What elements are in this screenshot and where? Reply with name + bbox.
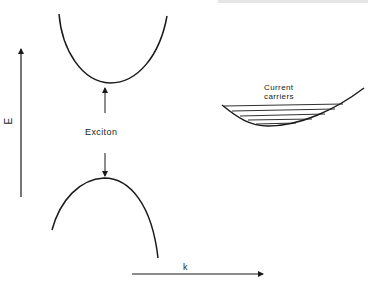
current-carriers-label-line2: carriers (264, 92, 294, 102)
exciton-label: Exciton (85, 127, 117, 137)
conduction-band-curve (59, 14, 167, 83)
valence-band-curve (52, 178, 158, 258)
momentum-axis-label: k (183, 262, 188, 272)
band-diagram (0, 0, 377, 282)
energy-axis-label: E (4, 117, 14, 124)
carrier-levels (224, 104, 343, 124)
